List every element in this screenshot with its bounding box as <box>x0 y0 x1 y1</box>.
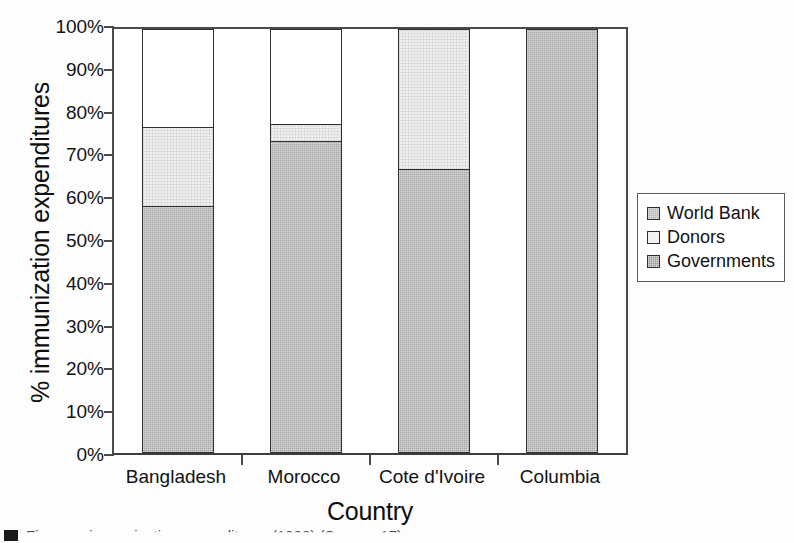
y-axis-tick-labels: 100%90%80%70%60%50%40%30%20%10%0% <box>34 27 104 455</box>
stacked-bar <box>142 29 214 453</box>
y-axis-tick-label: 30% <box>34 317 104 336</box>
y-axis-tick-label: 70% <box>34 145 104 164</box>
bar-segment-donors <box>142 127 214 206</box>
legend-item-label: Governments <box>667 252 775 270</box>
x-axis-category-labels: BangladeshMoroccoCote d'IvoireColumbia <box>112 466 628 496</box>
x-axis-tick-mark <box>369 455 371 465</box>
legend-item: Governments <box>647 249 775 273</box>
bar-segment-governments <box>398 169 470 453</box>
y-axis-tick-label: 50% <box>34 231 104 250</box>
legend-item-label: Donors <box>667 228 725 246</box>
y-axis-tick-label: 10% <box>34 402 104 421</box>
stacked-bar <box>398 29 470 453</box>
y-axis-tick-label: 20% <box>34 359 104 378</box>
bar-segment-world-bank <box>142 29 214 127</box>
x-axis-category-label: Morocco <box>240 466 368 488</box>
legend-swatch-donors-icon <box>647 231 660 244</box>
bar-segment-world-bank <box>270 29 342 124</box>
x-axis-category-label: Cote d'Ivoire <box>368 466 496 488</box>
y-axis-tick-label: 0% <box>34 445 104 464</box>
y-axis-tick-mark <box>104 326 114 328</box>
y-axis-tick-label: 90% <box>34 60 104 79</box>
stacked-bar <box>270 29 342 453</box>
bar-segment-donors <box>270 124 342 141</box>
y-axis-tick-mark <box>104 240 114 242</box>
bar-slot <box>526 29 598 453</box>
y-axis-tick-mark <box>104 112 114 114</box>
legend-swatch-world-bank-icon <box>647 207 660 220</box>
bar-segment-governments <box>526 29 598 453</box>
figure-caption-text: Figure ... immunization expenditures (19… <box>26 528 402 543</box>
y-axis-tick-mark <box>104 26 114 28</box>
legend-box: World BankDonorsGovernments <box>637 193 785 282</box>
y-axis-tick-mark <box>104 197 114 199</box>
x-axis-tick-mark <box>497 455 499 465</box>
legend-item: World Bank <box>647 201 775 225</box>
stacked-bar <box>526 29 598 453</box>
y-axis-tick-label: 100% <box>34 17 104 36</box>
y-axis-tick-label: 40% <box>34 274 104 293</box>
bar-segment-governments <box>270 141 342 453</box>
y-axis-tick-mark <box>104 283 114 285</box>
y-axis-tick-mark <box>104 154 114 156</box>
bar-slot <box>398 29 470 453</box>
y-axis-tick-mark <box>104 411 114 413</box>
bar-segment-governments <box>142 206 214 453</box>
y-axis-tick-mark <box>104 368 114 370</box>
y-axis-tick-mark <box>104 69 114 71</box>
x-axis-category-label: Bangladesh <box>112 466 240 488</box>
legend-item-label: World Bank <box>667 204 760 222</box>
caption-bullet-marker <box>4 530 18 541</box>
bar-slot <box>270 29 342 453</box>
x-axis-title: Country <box>112 497 628 526</box>
y-axis-tick-label: 80% <box>34 103 104 122</box>
y-axis-tick-label: 60% <box>34 188 104 207</box>
legend-item: Donors <box>647 225 775 249</box>
legend-swatch-governments-icon <box>647 255 660 268</box>
stacked-bar-chart-figure: % immunization expenditures 100%90%80%70… <box>0 0 794 543</box>
x-axis-tick-mark <box>241 455 243 465</box>
bar-segment-donors <box>398 29 470 169</box>
y-axis-tick-mark <box>104 454 114 456</box>
bar-group <box>114 29 626 453</box>
x-axis-category-label: Columbia <box>496 466 624 488</box>
figure-caption-strip: Figure ... immunization expenditures (19… <box>0 527 794 543</box>
bar-slot <box>142 29 214 453</box>
